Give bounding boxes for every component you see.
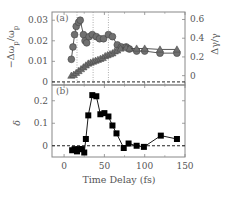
data-point-square — [85, 112, 91, 118]
data-point-square — [126, 141, 132, 147]
data-point-square — [134, 143, 140, 149]
data-point-circle — [83, 39, 90, 46]
y-axis-label-left: −Δωp/ωp — [5, 25, 20, 68]
data-point-square — [105, 114, 111, 120]
y-tick-label: 0.2 — [34, 96, 48, 106]
x-axis-label: Time Delay (fs) — [82, 174, 155, 185]
data-point-square — [83, 136, 89, 142]
y2-tick-label: 0.2 — [190, 52, 204, 62]
data-point-circle — [68, 56, 75, 63]
y2-tick-label: 0.4 — [190, 33, 205, 43]
data-point-circle — [71, 31, 78, 38]
data-point-square — [174, 136, 180, 142]
panel-label: (b) — [56, 86, 69, 96]
data-point-square — [109, 123, 115, 129]
x-tick-label: 50 — [99, 161, 111, 171]
data-point-circle — [77, 17, 84, 24]
y-tick-label: 0.02 — [28, 36, 48, 46]
series-line-square — [72, 95, 177, 152]
y-tick-label: 0.03 — [28, 15, 48, 25]
y-axis-label-right: Δγ/γ — [209, 33, 220, 55]
y-tick-label: 0.01 — [28, 56, 48, 66]
y2-tick-label: 0 — [190, 71, 196, 81]
figure: 00.010.020.0300.20.40.6(a) 00.10.2050100… — [0, 0, 229, 198]
data-point-circle — [109, 33, 116, 40]
y-tick-label: 0 — [42, 141, 48, 151]
data-point-square — [141, 144, 147, 150]
y-axis-label-b: δ — [11, 120, 22, 126]
x-tick-label: 100 — [136, 161, 153, 171]
data-point-square — [81, 150, 87, 156]
y-tick-label: 0.1 — [34, 118, 48, 128]
x-tick-label: 150 — [176, 161, 193, 171]
y-tick-label: 0 — [42, 77, 48, 87]
data-point-square — [158, 133, 164, 139]
x-tick-label: 0 — [61, 161, 67, 171]
panel-b: 00.10.2050100150(b) — [34, 85, 194, 171]
panel-label: (a) — [56, 13, 68, 23]
data-point-circle — [70, 44, 77, 51]
panel-a: 00.010.020.0300.20.40.6(a) — [28, 12, 205, 87]
data-point-square — [113, 130, 119, 136]
data-point-square — [93, 93, 99, 99]
y2-tick-label: 0.6 — [190, 14, 205, 24]
